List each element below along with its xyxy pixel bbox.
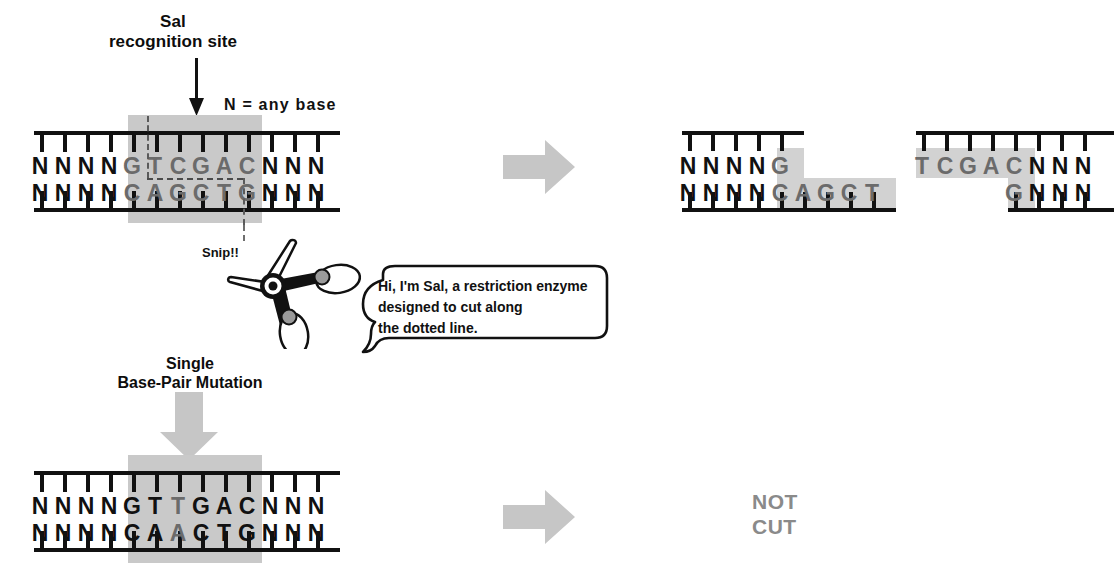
base: T — [911, 155, 933, 178]
base: A — [980, 155, 1002, 178]
base: G — [236, 522, 258, 545]
mutation-title-line2: Base-Pair Mutation — [75, 373, 305, 392]
base: T — [861, 182, 883, 205]
recognition-site-title-line1: Sal — [68, 12, 278, 32]
base: C — [121, 182, 143, 205]
not-cut-line1: NOT — [752, 489, 798, 514]
base: C — [236, 495, 258, 518]
speech-bubble-text: Hi, I'm Sal, a restriction enzyme design… — [378, 276, 602, 339]
base: A — [792, 182, 814, 205]
base: C — [838, 182, 860, 205]
base: N — [52, 155, 74, 178]
cut-line-lower-vertical — [243, 178, 245, 225]
speech-line-2: designed to cut along — [378, 297, 602, 318]
base: N — [1072, 182, 1094, 205]
right-fragment-bottom-backbone — [1008, 208, 1114, 212]
speech-line-3: the dotted line. — [378, 318, 602, 339]
base: N — [1049, 155, 1071, 178]
dna-bottom-backbone — [34, 208, 340, 212]
base: G — [1003, 182, 1025, 205]
base: N — [746, 182, 768, 205]
speech-line-1: Hi, I'm Sal, a restriction enzyme — [378, 276, 602, 297]
not-cut-result: NOT CUT — [752, 489, 798, 539]
base: N — [29, 182, 51, 205]
base: T — [213, 522, 235, 545]
base: N — [98, 182, 120, 205]
base: N — [677, 182, 699, 205]
site-pointer-arrow-icon — [186, 58, 208, 120]
base: N — [1072, 155, 1094, 178]
recognition-site-title-line2: recognition site — [68, 32, 278, 52]
base: A — [144, 522, 166, 545]
cut-line-upper-vertical — [147, 116, 149, 178]
base: N — [282, 155, 304, 178]
base: N — [259, 495, 281, 518]
mutation-arrow-icon — [160, 392, 218, 460]
base: N — [75, 495, 97, 518]
base: N — [259, 155, 281, 178]
base: N — [75, 155, 97, 178]
base: N — [259, 182, 281, 205]
base: N — [1026, 155, 1048, 178]
base: C — [236, 155, 258, 178]
mutation-title: Single Base-Pair Mutation — [75, 354, 305, 392]
base: N — [29, 495, 51, 518]
base: G — [190, 495, 212, 518]
base: N — [677, 155, 699, 178]
not-cut-line2: CUT — [752, 514, 798, 539]
base: A — [144, 182, 166, 205]
base: N — [52, 182, 74, 205]
base: T — [144, 495, 166, 518]
base: G — [190, 155, 212, 178]
base: T — [213, 182, 235, 205]
mutation-title-line1: Single — [75, 354, 305, 373]
process-arrow-top-icon — [503, 140, 575, 194]
base: N — [259, 522, 281, 545]
base: N — [305, 495, 327, 518]
cut-line-horizontal — [147, 178, 243, 180]
base: C — [1003, 155, 1025, 178]
left-fragment-top-backbone — [682, 131, 804, 135]
base: N — [282, 182, 304, 205]
base: N — [700, 155, 722, 178]
base: C — [934, 155, 956, 178]
base: N — [723, 155, 745, 178]
base: G — [121, 155, 143, 178]
base: N — [98, 155, 120, 178]
base: A — [213, 495, 235, 518]
base: N — [75, 522, 97, 545]
recognition-site-title: Sal recognition site — [68, 12, 278, 52]
base: N — [282, 495, 304, 518]
base: G — [121, 495, 143, 518]
base: N — [98, 495, 120, 518]
base: N — [98, 522, 120, 545]
base: N — [1026, 182, 1048, 205]
base: C — [190, 182, 212, 205]
base: G — [957, 155, 979, 178]
base: G — [167, 182, 189, 205]
base: N — [723, 182, 745, 205]
base: N — [282, 522, 304, 545]
base: N — [29, 522, 51, 545]
scissors-icon — [226, 237, 366, 349]
base: G — [769, 155, 791, 178]
base: N — [305, 155, 327, 178]
base: N — [1049, 182, 1071, 205]
base: G — [236, 182, 258, 205]
base: G — [815, 182, 837, 205]
base: C — [121, 522, 143, 545]
base: N — [746, 155, 768, 178]
process-arrow-bottom-icon — [503, 490, 575, 544]
base: C — [190, 522, 212, 545]
base: N — [305, 522, 327, 545]
left-fragment-bottom-backbone — [682, 208, 896, 212]
mutant-bottom-backbone — [34, 548, 340, 552]
base: N — [305, 182, 327, 205]
base: N — [75, 182, 97, 205]
mutated-base-top: T — [167, 495, 189, 518]
base: A — [213, 155, 235, 178]
base: N — [52, 522, 74, 545]
base: N — [52, 495, 74, 518]
base: C — [167, 155, 189, 178]
base: C — [769, 182, 791, 205]
